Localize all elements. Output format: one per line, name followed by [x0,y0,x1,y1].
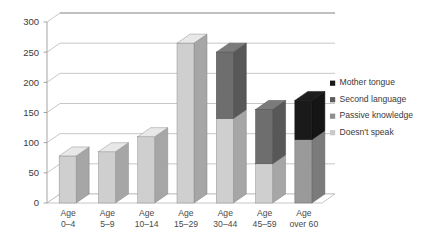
chart-legend: Mother tongueSecond languagePassive know… [330,77,413,137]
x-axis-category-label: Age [218,208,234,218]
legend-swatch [330,130,335,135]
bar-segment [177,34,207,203]
x-axis-category-label: 5–9 [100,219,115,229]
legend-item: Passive knowledge [330,110,413,120]
legend-label: Second language [340,94,407,104]
y-axis-tick-label: 150 [23,107,39,118]
legend-label: Passive knowledge [340,110,414,120]
legend-swatch [330,114,335,119]
y-axis-tick-label: 0 [34,197,39,208]
bar-group [177,34,207,203]
legend-item: Mother tongue [330,77,395,87]
bar-group [138,128,168,203]
bar-segment [256,100,286,163]
bar-segment [216,110,246,203]
x-axis-category-label: 15–29 [174,219,198,229]
bar-segment [138,128,168,203]
x-axis-category-labels: Age0–4Age5–9Age10–14Age15–29Age30–44Age4… [60,208,318,229]
bar-group [98,143,128,203]
x-axis-category-label: Age [178,208,194,218]
x-axis-category-label: Age [139,208,155,218]
bar-segment [216,43,246,118]
y-axis-tick-label: 300 [23,16,39,27]
x-axis-category-label: Age [257,208,273,218]
x-axis-category-label: 45–59 [253,219,277,229]
x-axis-category-label: 0–4 [61,219,76,229]
x-axis-category-label: over 60 [290,219,319,229]
stacked-column-chart: 050100150200250300 Age0–4Age5–9Age10–14A… [0,0,431,243]
legend-item: Doesn't speak [330,127,394,137]
bar-segment [295,131,325,203]
legend-label: Doesn't speak [340,127,395,137]
bar-group [59,147,89,203]
bar-group [256,100,286,203]
y-axis [44,22,48,203]
bar-group [295,91,325,203]
y-axis-tick-label: 250 [23,47,39,58]
x-axis-category-label: Age [60,208,76,218]
legend-item: Second language [330,94,407,104]
y-axis-tick-label: 50 [28,167,39,178]
legend-swatch [330,97,335,102]
y-axis-tick-label: 100 [23,137,39,148]
y-axis-tick-labels: 050100150200250300 [23,16,39,208]
x-axis-category-label: Age [100,208,116,218]
chart-container: 050100150200250300 Age0–4Age5–9Age10–14A… [0,0,431,243]
x-axis-category-label: 30–44 [213,219,237,229]
x-axis-category-label: Age [296,208,312,218]
y-axis-tick-label: 200 [23,77,39,88]
bar-group [216,43,246,203]
legend-label: Mother tongue [340,77,396,87]
x-axis-category-label: 10–14 [135,219,159,229]
legend-swatch [330,81,335,86]
